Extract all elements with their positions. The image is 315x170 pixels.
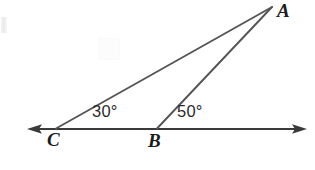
vertex-label-c: C <box>47 130 60 149</box>
segment-BA-line <box>157 7 272 129</box>
geometry-figure: A B C 30° 50° <box>0 0 315 170</box>
vertex-label-a: A <box>277 1 290 20</box>
angle-measure-at-b: 50° <box>177 103 203 120</box>
segment-CA-line <box>56 7 272 129</box>
angle-measure-at-c: 30° <box>92 103 118 120</box>
vertex-label-b: B <box>148 131 161 150</box>
